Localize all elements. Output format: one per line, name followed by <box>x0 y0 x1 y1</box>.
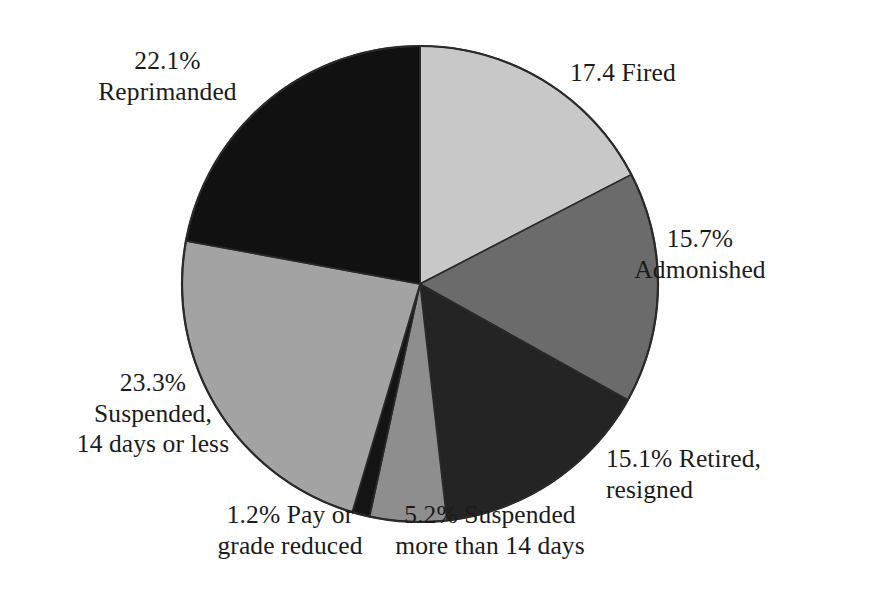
pie-label-pay-or-grade-reduced: 1.2% Pay or grade reduced <box>175 500 405 561</box>
pie-label-retired-line2: resigned <box>606 475 856 506</box>
pie-chart-figure: 22.1% Reprimanded 17.4 Fired 15.7% Admon… <box>0 0 881 613</box>
pie-label-reprimanded-value: 22.1% <box>60 46 275 77</box>
pie-label-susp-less-line2: Suspended, <box>38 399 268 430</box>
pie-label-retired-resigned: 15.1% Retired, resigned <box>606 444 856 505</box>
pie-label-suspended-14-days-or-less: 23.3% Suspended, 14 days or less <box>38 368 268 460</box>
pie-label-fired-text: 17.4 Fired <box>570 58 810 89</box>
pie-label-admonished-value: 15.7% <box>613 224 788 255</box>
pie-label-pay-grade-line2: grade reduced <box>175 531 405 562</box>
pie-label-reprimanded: 22.1% Reprimanded <box>60 46 275 107</box>
pie-label-admonished: 15.7% Admonished <box>613 224 788 285</box>
pie-label-pay-grade-line1: 1.2% Pay or <box>175 500 405 531</box>
pie-label-retired-line1: 15.1% Retired, <box>606 444 856 475</box>
pie-label-admonished-text: Admonished <box>613 255 788 286</box>
pie-label-susp-less-line3: 14 days or less <box>38 429 268 460</box>
pie-label-reprimanded-text: Reprimanded <box>60 77 275 108</box>
pie-label-fired: 17.4 Fired <box>570 58 810 89</box>
pie-label-susp-less-line1: 23.3% <box>38 368 268 399</box>
